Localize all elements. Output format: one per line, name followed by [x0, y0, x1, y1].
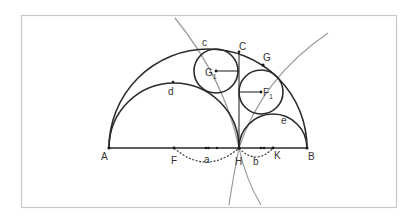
point-b	[305, 146, 308, 149]
diagram-canvas: A B C G c d e F a H b K G1 F1	[0, 0, 417, 220]
label-b: B	[308, 151, 315, 162]
label-a-lower: a	[204, 154, 210, 165]
label-c-lower: c	[202, 37, 207, 48]
label-k: K	[274, 150, 281, 161]
point-dot-4	[260, 147, 263, 150]
point-f1	[260, 91, 263, 94]
point-k	[272, 147, 275, 150]
label-e: e	[281, 115, 287, 126]
point-dot-2	[207, 147, 210, 150]
label-a: A	[101, 151, 108, 162]
label-h: H	[235, 156, 242, 167]
point-g1	[215, 70, 218, 73]
point-a	[107, 146, 110, 149]
label-g1-sub: 1	[213, 73, 217, 80]
point-dot-1	[205, 147, 208, 150]
label-b-lower: b	[253, 156, 259, 167]
label-c-upper: C	[239, 41, 246, 52]
frame	[22, 16, 397, 208]
label-f1-sub: 1	[269, 93, 273, 100]
point-g	[261, 63, 264, 66]
label-g: G	[263, 52, 271, 63]
point-h	[237, 146, 240, 149]
point-d	[172, 81, 175, 84]
point-f	[173, 147, 176, 150]
point-dot-3	[216, 147, 218, 149]
label-f: F	[171, 155, 177, 166]
point-dot-5	[263, 147, 266, 150]
label-d: d	[168, 86, 174, 97]
